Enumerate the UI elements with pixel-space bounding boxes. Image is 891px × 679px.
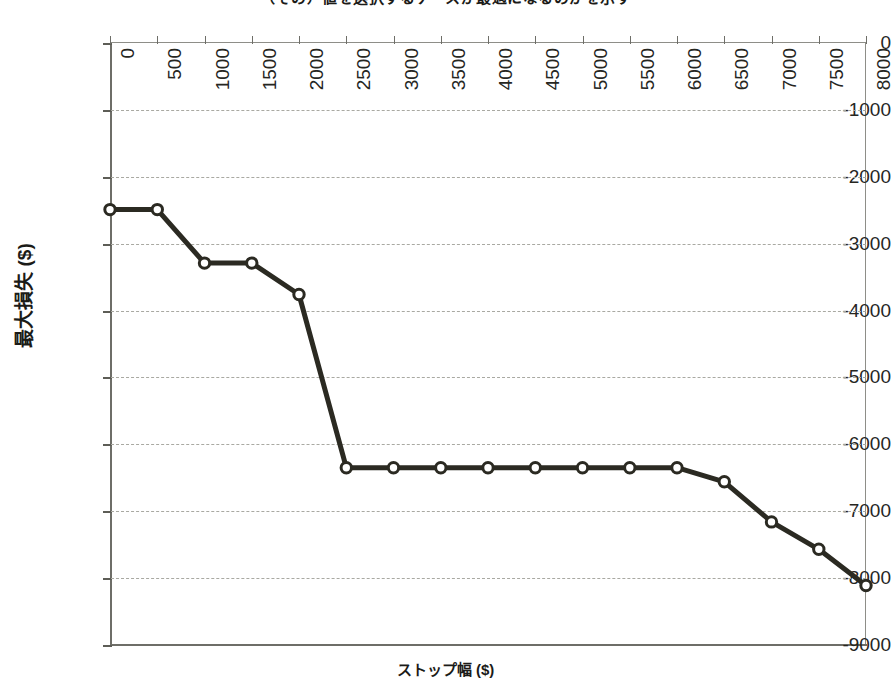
x-tick-mark xyxy=(724,36,725,44)
x-tick-mark xyxy=(157,36,158,44)
plot-border-right xyxy=(865,43,866,646)
x-tick-label: 7000 xyxy=(779,48,801,90)
x-tick-mark xyxy=(535,36,536,44)
gridline-horizontal xyxy=(111,177,866,178)
gridline-horizontal xyxy=(111,311,866,312)
x-tick-mark xyxy=(488,36,489,44)
x-tick-mark xyxy=(346,36,347,44)
data-point-marker xyxy=(294,289,304,299)
data-point-marker xyxy=(247,258,257,268)
x-tick-label: 6000 xyxy=(684,48,706,90)
x-tick-label: 3000 xyxy=(401,48,423,90)
data-point-marker xyxy=(672,463,682,473)
data-point-marker xyxy=(766,517,776,527)
data-point-marker xyxy=(577,463,587,473)
y-axis-line xyxy=(110,43,112,646)
x-tick-label: 500 xyxy=(164,48,186,80)
x-tick-label: 2500 xyxy=(353,48,375,90)
gridline-horizontal xyxy=(111,244,866,245)
chart-title: （その）値を選択するケースが最適になるのかを示す xyxy=(0,0,891,7)
x-tick-mark xyxy=(866,36,867,44)
series-line-maximum-loss xyxy=(110,210,866,586)
x-tick-mark xyxy=(394,36,395,44)
x-tick-label: 1500 xyxy=(259,48,281,90)
y-axis-title: 最大損失 ($) xyxy=(9,186,36,406)
x-tick-label: 7500 xyxy=(826,48,848,90)
x-tick-label: 4500 xyxy=(542,48,564,90)
x-axis-line xyxy=(110,644,867,646)
x-tick-label: 2000 xyxy=(306,48,328,90)
x-tick-mark xyxy=(110,36,111,44)
gridline-horizontal xyxy=(111,377,866,378)
x-tick-label: 3500 xyxy=(448,48,470,90)
x-axis-title: ストップ幅 ($) xyxy=(0,658,891,679)
data-point-marker xyxy=(152,204,162,214)
x-tick-mark xyxy=(630,36,631,44)
data-point-marker xyxy=(199,258,209,268)
data-point-marker xyxy=(341,463,351,473)
x-tick-label: 4000 xyxy=(495,48,517,90)
data-point-marker xyxy=(530,463,540,473)
x-tick-mark xyxy=(819,36,820,44)
x-tick-label: 6500 xyxy=(731,48,753,90)
x-tick-mark xyxy=(677,36,678,44)
x-tick-mark xyxy=(772,36,773,44)
x-tick-label: 0 xyxy=(117,48,139,59)
x-tick-label: 5500 xyxy=(637,48,659,90)
x-tick-label: 1000 xyxy=(212,48,234,90)
gridline-horizontal xyxy=(111,511,866,512)
x-tick-label: 5000 xyxy=(590,48,612,90)
x-tick-mark xyxy=(299,36,300,44)
x-tick-mark xyxy=(441,36,442,44)
gridline-horizontal xyxy=(111,578,866,579)
y-tick-label: -9000 xyxy=(799,634,891,656)
data-point-marker xyxy=(625,463,635,473)
x-tick-label: 8000 xyxy=(873,48,891,90)
data-point-marker xyxy=(719,477,729,487)
data-point-marker xyxy=(436,463,446,473)
data-point-marker xyxy=(388,463,398,473)
gridline-horizontal xyxy=(111,444,866,445)
x-tick-mark xyxy=(205,36,206,44)
y-tick-mark xyxy=(103,645,112,647)
data-point-marker xyxy=(483,463,493,473)
gridline-horizontal xyxy=(111,110,866,111)
data-point-marker xyxy=(814,544,824,554)
x-tick-mark xyxy=(583,36,584,44)
x-tick-mark xyxy=(252,36,253,44)
